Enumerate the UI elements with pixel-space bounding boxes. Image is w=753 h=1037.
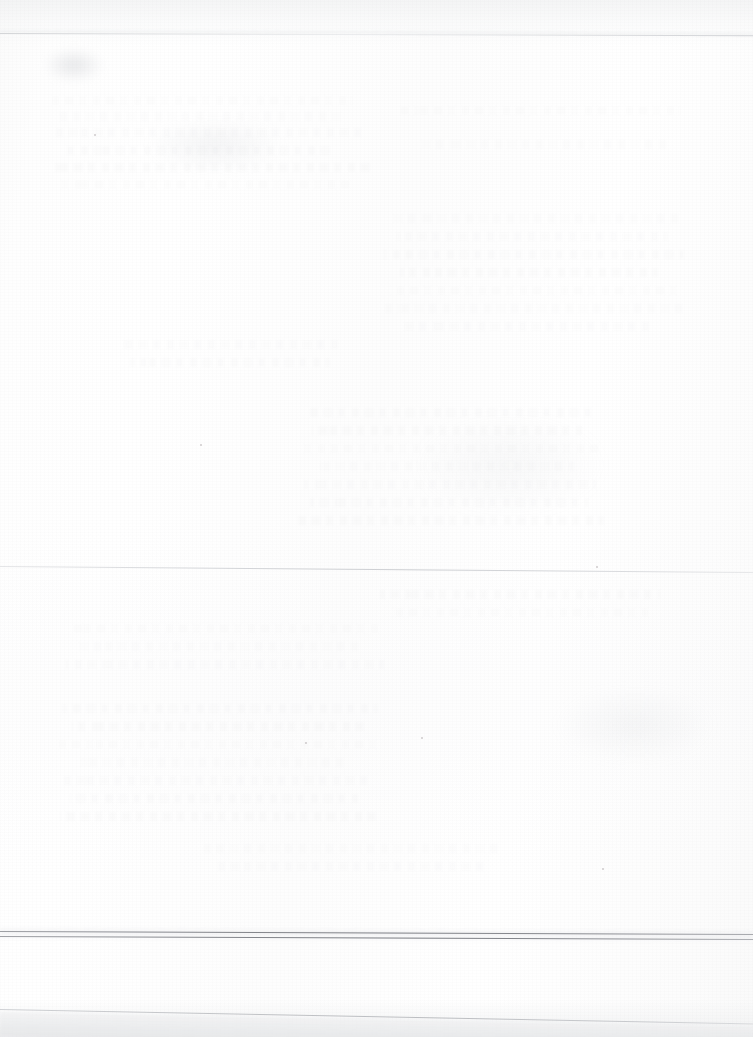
paper-grain-texture — [0, 0, 753, 1037]
scanned-page — [0, 0, 753, 1037]
